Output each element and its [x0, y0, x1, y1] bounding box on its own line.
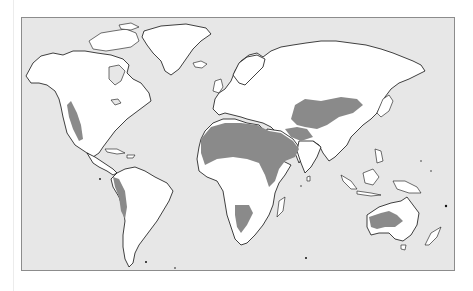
south-georgia: [174, 267, 176, 269]
arctic-islands: [89, 29, 139, 51]
galapagos: [99, 178, 101, 180]
indian-subcontinent: [297, 141, 321, 173]
philippines: [375, 149, 383, 163]
indonesia-sumatra: [341, 175, 357, 189]
indian-ocean-island: [300, 185, 301, 186]
kerguelen: [305, 257, 307, 259]
falkland-islands: [145, 261, 147, 263]
north-america: [26, 51, 151, 157]
arctic-island: [119, 23, 139, 30]
sri-lanka: [307, 176, 310, 181]
iceland: [193, 61, 207, 68]
pacific-island: [430, 170, 431, 171]
new-guinea: [393, 181, 421, 193]
world-map-svg: [22, 18, 455, 271]
central-america: [87, 153, 117, 175]
fiji: [445, 205, 447, 207]
hispaniola: [127, 155, 135, 158]
madagascar: [277, 197, 285, 217]
pacific-island: [420, 160, 421, 161]
borneo: [363, 169, 379, 185]
cuba: [105, 149, 125, 154]
tasmania: [401, 245, 406, 250]
world-map: [21, 17, 455, 271]
new-zealand: [425, 227, 441, 245]
page-margin-rule: [13, 0, 14, 291]
indonesia-java: [357, 191, 381, 196]
